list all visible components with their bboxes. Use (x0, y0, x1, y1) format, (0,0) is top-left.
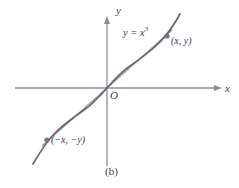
x-axis-arrow-icon (214, 85, 222, 91)
x-axis-label: x (225, 83, 230, 94)
point-label-negative: (−x, −y) (51, 135, 85, 145)
figure-container: y x O y = x3 (x, y) (−x, −y) (b) (0, 0, 239, 188)
figure-caption: (b) (105, 165, 118, 177)
curve-equation-label: y = x3 (123, 26, 148, 38)
graph-canvas (0, 0, 239, 188)
equation-base: y = x (123, 27, 145, 38)
y-axis-label: y (116, 5, 121, 16)
point-marker-negative (44, 137, 49, 142)
y-axis-arrow-icon (104, 16, 110, 24)
point-label-positive: (x, y) (171, 36, 192, 46)
equation-exponent: 3 (145, 25, 149, 33)
point-marker-positive (164, 33, 169, 38)
origin-label: O (110, 90, 118, 101)
x-axis (15, 85, 222, 91)
